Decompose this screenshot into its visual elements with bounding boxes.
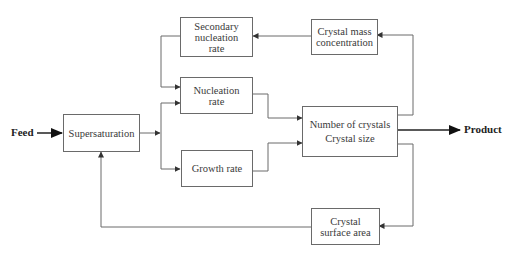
node-crystal-mass-concentration: Crystal mass concentration: [311, 19, 378, 55]
node-supersaturation: Supersaturation: [63, 114, 140, 152]
node-label: Secondary: [194, 21, 238, 32]
product-label: Product: [464, 123, 502, 135]
node-label: Crystal size: [325, 133, 374, 144]
node-nucleation-rate: Nucleation rate: [180, 77, 253, 114]
node-label: Supersaturation: [69, 128, 135, 139]
node-label: Crystal mass: [318, 26, 372, 37]
node-label: Number of crystals: [310, 119, 390, 130]
node-label: surface area: [320, 227, 370, 238]
node-crystal-surface-area: Crystal surface area: [311, 208, 380, 245]
node-label: Nucleation: [193, 85, 239, 96]
node-label: concentration: [316, 37, 373, 48]
node-growth-rate: Growth rate: [181, 150, 253, 187]
node-label: nucleation: [195, 32, 239, 43]
node-secondary-nucleation-rate: Secondary nucleation rate: [180, 17, 253, 57]
feed-label: Feed: [11, 126, 34, 138]
node-label: Growth rate: [192, 163, 242, 174]
node-label: rate: [209, 43, 225, 54]
node-label: rate: [209, 96, 225, 107]
node-label: Crystal: [330, 216, 360, 227]
node-number-of-crystals: Number of crystals Crystal size: [302, 106, 398, 157]
